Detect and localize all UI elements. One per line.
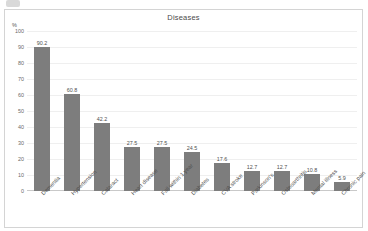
bar-slot: 27.5 [117,31,147,191]
bar-slot: 90.2 [27,31,57,191]
bar-value-label: 17.6 [207,156,237,162]
y-axis-tick-label: 50 [18,108,24,114]
x-label-slot: Hypertension [57,192,87,231]
y-axis-tick-label: 20 [18,156,24,162]
y-axis-tick-label: 30 [18,140,24,146]
bar[interactable] [94,123,111,191]
y-axis-tick-label: 10 [18,172,24,178]
y-axis-tick-label: 40 [18,124,24,130]
bar-value-label: 12.7 [267,164,297,170]
bar-slot: 12.7 [267,31,297,191]
x-label-slot: Cataract [87,192,117,231]
bar[interactable] [34,47,51,191]
y-axis-tick-label: 90 [18,44,24,50]
x-label-slot: Heart disease [117,192,147,231]
x-axis-tick-labels: DementiaHypertensionCataractHeart diseas… [27,192,357,231]
x-label-slot: Mental illness [297,192,327,231]
bar-value-label: 24.5 [177,145,207,151]
bar-slot: 27.5 [147,31,177,191]
x-label-slot: Parkinson's [237,192,267,231]
bar-value-label: 42.2 [87,116,117,122]
cropped-page-fragment [6,0,20,7]
chart-container: Diseases % 1009080706050403020100 90.260… [4,9,363,228]
y-axis-tick-label: 80 [18,60,24,66]
y-axis-tick-label: 70 [18,76,24,82]
bar-value-label: 27.5 [147,140,177,146]
bar-slot: 10.8 [297,31,327,191]
bar-slot: 5.9 [327,31,357,191]
y-axis-tick-label: 100 [15,28,24,34]
x-label-slot: Diabetes [177,192,207,231]
bar-slot: 12.7 [237,31,267,191]
x-label-slot: Dementia [27,192,57,231]
bar-value-label: 60.8 [57,87,87,93]
bar-slot: 60.8 [57,31,87,191]
bar-slot: 42.2 [87,31,117,191]
x-label-slot: Fall within 1 year [147,192,177,231]
bar-slot: 17.6 [207,31,237,191]
bar-value-label: 27.5 [117,140,147,146]
y-axis-tick-label: 60 [18,92,24,98]
bar-value-label: 12.7 [237,164,267,170]
bar[interactable] [64,94,81,191]
x-label-slot: Osteoarthritis [267,192,297,231]
y-axis-tick-label: 0 [21,188,24,194]
chart-title: Diseases [5,13,362,22]
x-label-slot: Chronic pain [327,192,357,231]
x-label-slot: CVA stroke [207,192,237,231]
bar-value-label: 90.2 [27,40,57,46]
